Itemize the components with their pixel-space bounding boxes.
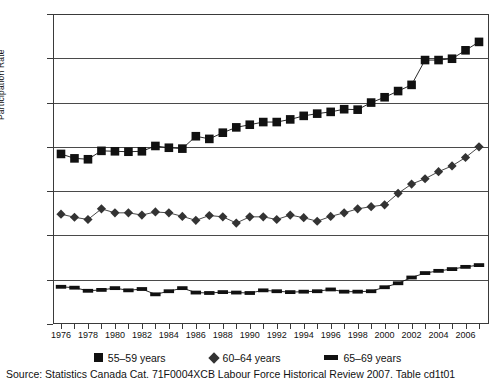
data-point <box>204 291 214 295</box>
series-2 <box>56 142 483 227</box>
data-point <box>285 290 295 294</box>
data-point <box>123 288 133 292</box>
series-1 <box>57 38 484 164</box>
data-point <box>150 292 160 296</box>
data-point <box>353 105 362 114</box>
chart-page: Participation Rate 010203040506070197619… <box>0 0 495 383</box>
data-point <box>406 276 416 280</box>
data-point <box>191 291 201 295</box>
data-point <box>56 285 66 289</box>
data-point <box>272 215 281 224</box>
data-point <box>434 167 443 176</box>
data-point <box>447 161 456 170</box>
data-point <box>461 153 470 162</box>
legend-label: 65–69 years <box>343 352 401 364</box>
data-point <box>352 290 362 294</box>
data-point <box>340 105 349 114</box>
data-point <box>164 208 173 217</box>
data-point <box>245 291 255 295</box>
data-point <box>83 289 93 293</box>
legend-label: 55–59 years <box>108 352 166 364</box>
series-line <box>61 147 479 223</box>
data-point <box>379 285 389 289</box>
data-point <box>407 179 416 188</box>
data-point <box>325 288 335 292</box>
data-point <box>205 135 214 144</box>
data-point <box>111 147 120 156</box>
data-point <box>420 271 430 275</box>
data-point <box>178 144 187 153</box>
data-point <box>97 204 106 213</box>
square-marker-icon <box>94 353 103 362</box>
data-point <box>434 56 443 65</box>
data-point <box>245 120 254 129</box>
data-point <box>110 208 119 217</box>
data-point <box>231 291 241 295</box>
data-point <box>394 87 403 96</box>
legend-item-65-69: 65–69 years <box>324 352 401 364</box>
data-point <box>393 281 403 285</box>
data-point <box>259 212 268 221</box>
diamond-marker-icon <box>208 352 219 363</box>
data-point <box>165 143 174 152</box>
data-point <box>448 54 457 63</box>
data-point <box>84 155 93 164</box>
data-point <box>474 263 484 267</box>
series-layer <box>0 0 495 345</box>
data-point <box>312 289 322 293</box>
data-point <box>124 208 133 217</box>
data-point <box>286 210 295 219</box>
data-point <box>340 208 349 217</box>
data-point <box>218 290 228 294</box>
data-point <box>433 269 443 273</box>
data-point <box>421 56 430 65</box>
data-point <box>447 267 457 271</box>
data-point <box>326 108 335 117</box>
data-point <box>299 112 308 121</box>
data-point <box>177 286 187 290</box>
data-point <box>299 213 308 222</box>
data-point <box>205 211 214 220</box>
data-point <box>245 212 254 221</box>
data-point <box>460 265 470 269</box>
data-point <box>313 217 322 226</box>
data-point <box>83 215 92 224</box>
data-point <box>57 150 66 159</box>
data-point <box>367 98 376 107</box>
data-point <box>286 115 295 124</box>
series-line <box>61 42 479 159</box>
data-point <box>110 286 120 290</box>
data-point <box>272 118 281 127</box>
data-point <box>272 289 282 293</box>
data-point <box>299 290 309 294</box>
participation-rate-chart: Participation Rate 010203040506070197619… <box>0 0 495 345</box>
data-point <box>313 109 322 118</box>
data-point <box>70 213 79 222</box>
data-point <box>70 154 79 163</box>
dash-marker-icon <box>324 355 338 360</box>
data-point <box>69 286 79 290</box>
data-point <box>407 81 416 90</box>
data-point <box>420 174 429 183</box>
data-point <box>97 147 106 156</box>
data-point <box>219 128 228 137</box>
source-note: Source: Statistics Canada Cat. 71F0004XC… <box>6 368 495 380</box>
data-point <box>232 123 241 132</box>
data-point <box>191 216 200 225</box>
data-point <box>380 93 389 102</box>
data-point <box>138 147 147 156</box>
data-point <box>326 212 335 221</box>
legend-label: 60–64 years <box>223 352 281 364</box>
data-point <box>258 288 268 292</box>
data-point <box>164 289 174 293</box>
legend-item-60-64: 60–64 years <box>210 352 281 364</box>
data-point <box>461 46 470 55</box>
data-point <box>151 207 160 216</box>
data-point <box>151 142 160 151</box>
data-point <box>178 212 187 221</box>
data-point <box>218 212 227 221</box>
data-point <box>56 210 65 219</box>
chart-legend: 55–59 years 60–64 years 65–69 years <box>0 349 495 366</box>
data-point <box>137 210 146 219</box>
data-point <box>192 132 201 141</box>
